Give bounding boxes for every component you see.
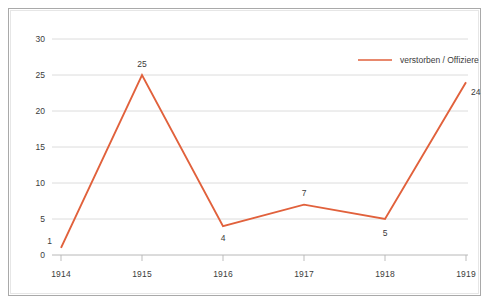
series-line-verstorben-offiziere bbox=[61, 75, 466, 248]
x-tick-marks bbox=[61, 255, 466, 261]
x-tick-label-1917: 1917 bbox=[294, 269, 314, 279]
legend-label-verstorben-offiziere: verstorben / Offiziere bbox=[400, 55, 479, 65]
y-tick-label-5: 5 bbox=[40, 214, 45, 224]
y-tick-label-25: 25 bbox=[36, 70, 46, 80]
x-tick-label-1919: 1919 bbox=[456, 269, 476, 279]
x-axis-labels: 1914 1915 1916 1917 1918 1919 bbox=[51, 269, 476, 279]
point-label-1918: 5 bbox=[383, 228, 388, 238]
x-tick-label-1914: 1914 bbox=[51, 269, 71, 279]
point-label-1917: 7 bbox=[302, 188, 307, 198]
x-tick-label-1915: 1915 bbox=[132, 269, 152, 279]
y-tick-label-15: 15 bbox=[36, 142, 46, 152]
y-tick-label-20: 20 bbox=[36, 106, 46, 116]
data-point-labels: 1 25 4 7 5 24 bbox=[47, 59, 480, 246]
x-tick-label-1918: 1918 bbox=[375, 269, 395, 279]
line-chart: 30 25 20 15 10 5 0 1914 1915 1916 1917 1… bbox=[0, 0, 491, 307]
y-axis-labels: 30 25 20 15 10 5 0 bbox=[36, 34, 46, 260]
point-label-1915: 25 bbox=[137, 59, 147, 69]
point-label-1916: 4 bbox=[221, 233, 226, 243]
gridlines bbox=[52, 39, 468, 219]
y-tick-label-0: 0 bbox=[40, 250, 45, 260]
chart-legend: verstorben / Offiziere bbox=[358, 55, 479, 65]
y-tick-label-30: 30 bbox=[36, 34, 46, 44]
point-label-1919: 24 bbox=[471, 87, 481, 97]
y-tick-label-10: 10 bbox=[36, 178, 46, 188]
point-label-1914: 1 bbox=[47, 236, 52, 246]
x-tick-label-1916: 1916 bbox=[213, 269, 233, 279]
chart-figure: 30 25 20 15 10 5 0 1914 1915 1916 1917 1… bbox=[0, 0, 491, 307]
